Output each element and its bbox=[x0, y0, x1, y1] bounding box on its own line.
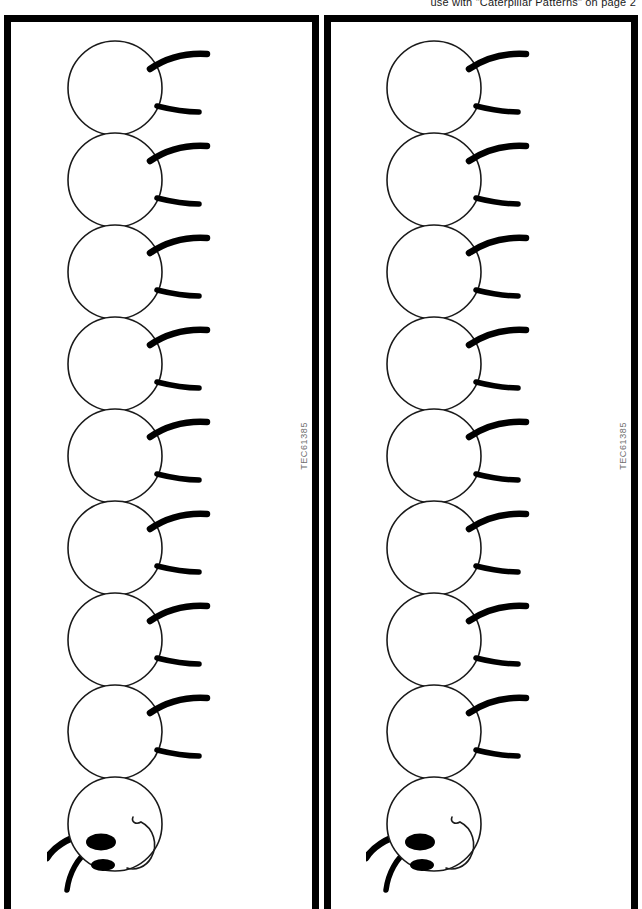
body-segment bbox=[68, 685, 207, 779]
curved-leg-icon bbox=[150, 514, 207, 529]
circle-outline-icon bbox=[387, 225, 481, 319]
curved-leg-icon bbox=[476, 106, 518, 112]
circle-outline-icon bbox=[68, 317, 162, 411]
circle-outline-icon bbox=[68, 593, 162, 687]
curved-leg-icon bbox=[150, 698, 207, 713]
body-segment bbox=[68, 409, 207, 503]
curved-leg-icon bbox=[476, 290, 518, 296]
body-segment bbox=[68, 317, 207, 411]
body-segment bbox=[68, 225, 207, 319]
curved-leg-icon bbox=[150, 238, 207, 253]
body-segment bbox=[387, 501, 526, 595]
curved-leg-icon bbox=[476, 474, 518, 480]
circle-outline-icon bbox=[68, 501, 162, 595]
caterpillar-figure-right bbox=[366, 22, 596, 902]
curved-leg-icon bbox=[476, 382, 518, 388]
body-segment bbox=[387, 133, 526, 227]
panel-inner-left: TEC61385 bbox=[11, 22, 312, 909]
curved-leg-icon bbox=[157, 198, 199, 204]
head-outline-icon bbox=[387, 777, 481, 871]
circle-outline-icon bbox=[387, 133, 481, 227]
curved-leg-icon bbox=[476, 566, 518, 572]
curved-leg-icon bbox=[150, 54, 207, 69]
circle-outline-icon bbox=[387, 409, 481, 503]
curved-leg-icon bbox=[469, 698, 526, 713]
curved-leg-icon bbox=[157, 474, 199, 480]
code-label-right: TEC61385 bbox=[618, 422, 628, 470]
eye-oval-icon bbox=[410, 859, 434, 871]
curved-leg-icon bbox=[157, 658, 199, 664]
circle-outline-icon bbox=[68, 685, 162, 779]
curved-leg-icon bbox=[157, 382, 199, 388]
curved-leg-icon bbox=[476, 198, 518, 204]
circle-outline-icon bbox=[387, 501, 481, 595]
circle-outline-icon bbox=[68, 133, 162, 227]
body-segment bbox=[68, 501, 207, 595]
curved-leg-icon bbox=[469, 146, 526, 161]
curved-leg-icon bbox=[157, 750, 199, 756]
curved-leg-icon bbox=[476, 658, 518, 664]
curved-leg-icon bbox=[157, 290, 199, 296]
body-segment bbox=[387, 225, 526, 319]
curved-leg-icon bbox=[476, 750, 518, 756]
curved-leg-icon bbox=[150, 606, 207, 621]
pattern-panel-left: TEC61385 bbox=[4, 15, 319, 909]
curved-leg-icon bbox=[469, 330, 526, 345]
curved-leg-icon bbox=[157, 566, 199, 572]
body-segment bbox=[387, 409, 526, 503]
panel-inner-right: TEC61385 bbox=[331, 22, 631, 909]
circle-outline-icon bbox=[68, 409, 162, 503]
curved-leg-icon bbox=[469, 514, 526, 529]
eye-oval-icon bbox=[405, 834, 435, 851]
curved-leg-icon bbox=[157, 106, 199, 112]
body-segment bbox=[387, 593, 526, 687]
curved-leg-icon bbox=[469, 54, 526, 69]
curved-leg-icon bbox=[469, 238, 526, 253]
caterpillar-head-icon bbox=[366, 777, 481, 890]
curved-leg-icon bbox=[469, 606, 526, 621]
body-segment bbox=[68, 593, 207, 687]
body-segment bbox=[387, 317, 526, 411]
curved-leg-icon bbox=[150, 330, 207, 345]
circle-outline-icon bbox=[387, 593, 481, 687]
circle-outline-icon bbox=[387, 317, 481, 411]
pattern-panel-right: TEC61385 bbox=[324, 15, 638, 909]
eye-oval-icon bbox=[91, 859, 115, 871]
circle-outline-icon bbox=[387, 685, 481, 779]
curved-leg-icon bbox=[150, 146, 207, 161]
circle-outline-icon bbox=[68, 225, 162, 319]
header-note: use with "Caterpillar Patterns" on page … bbox=[0, 0, 642, 9]
body-segment bbox=[68, 133, 207, 227]
curved-leg-icon bbox=[150, 422, 207, 437]
caterpillar-figure-left bbox=[47, 22, 277, 902]
body-segment bbox=[68, 41, 207, 135]
caterpillar-head-icon bbox=[47, 777, 162, 890]
circle-outline-icon bbox=[387, 41, 481, 135]
circle-outline-icon bbox=[68, 41, 162, 135]
code-label-left: TEC61385 bbox=[299, 422, 309, 470]
body-segment bbox=[387, 41, 526, 135]
eye-oval-icon bbox=[86, 834, 116, 851]
curved-leg-icon bbox=[469, 422, 526, 437]
head-outline-icon bbox=[68, 777, 162, 871]
body-segment bbox=[387, 685, 526, 779]
